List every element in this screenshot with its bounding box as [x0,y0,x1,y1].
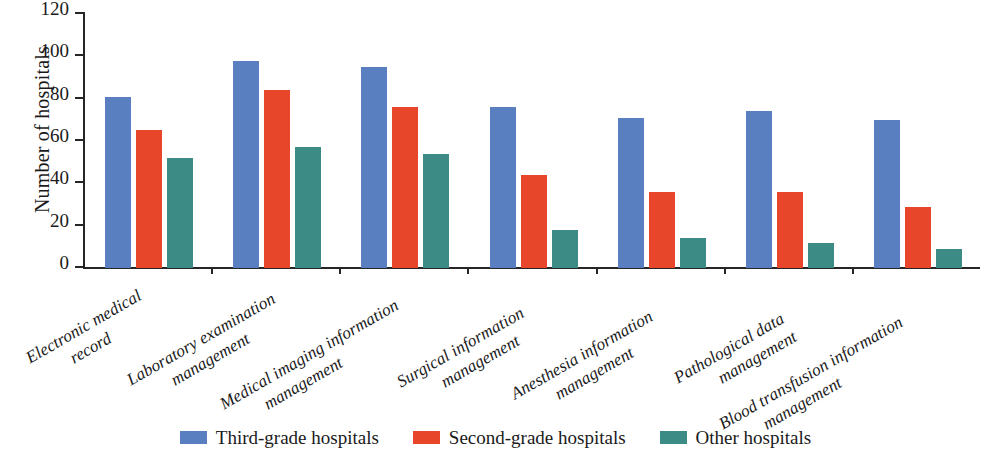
y-axis-tick-label: 60 [23,126,69,145]
y-axis-tick: 120 [75,12,85,14]
x-axis-category-labels: Electronic medicalrecordLaboratory exami… [0,268,991,418]
x-axis-tick [339,267,341,274]
x-axis-tick [596,267,598,274]
bar [521,175,547,268]
x-axis-tick [211,267,213,274]
legend-swatch [413,431,440,444]
bar [392,107,418,268]
legend-swatch [660,431,687,444]
bar-group [490,14,578,268]
x-axis-tick [724,267,726,274]
bar [136,130,162,268]
bar [936,249,962,268]
bar [423,154,449,268]
legend-label: Other hospitals [696,428,812,447]
legend-item[interactable]: Other hospitals [660,428,812,447]
bar-group [618,14,706,268]
bar [777,192,803,268]
bar [905,207,931,268]
bar [361,67,387,268]
legend-item[interactable]: Third-grade hospitals [180,428,379,447]
bar [618,118,644,268]
y-axis-tick: 100 [75,54,85,56]
bar [105,97,131,268]
legend-swatch [180,431,207,444]
x-axis-category-label: Anesthesia informationmanagement [507,306,668,424]
bar [874,120,900,268]
bar [680,238,706,268]
y-axis-tick: 20 [75,224,85,226]
bar-group [874,14,962,268]
y-axis-tick-label: 20 [23,211,69,230]
y-axis-tick-label: 40 [23,168,69,187]
legend-label: Third-grade hospitals [216,428,379,447]
bar-group [233,14,321,268]
y-axis-tick: 40 [75,181,85,183]
bar [552,230,578,268]
x-axis-tick [852,267,854,274]
bar [233,61,259,268]
bar [649,192,675,268]
legend-item[interactable]: Second-grade hospitals [413,428,626,447]
y-axis-tick: 60 [75,139,85,141]
bar-group [361,14,449,268]
y-axis-tick-label: 80 [23,84,69,103]
plot-area: 020406080100120 [83,14,980,268]
bar [167,158,193,268]
bar [264,90,290,268]
chart-legend: Third-grade hospitalsSecond-grade hospit… [0,428,991,447]
legend-label: Second-grade hospitals [449,428,626,447]
y-axis-tick-label: 100 [23,41,69,60]
bar-group [105,14,193,268]
bar [295,147,321,268]
bar [746,111,772,268]
y-axis-tick: 80 [75,97,85,99]
x-axis-tick [467,267,469,274]
bar [808,243,834,268]
bar-group [746,14,834,268]
bar [490,107,516,268]
y-axis-tick-label: 120 [23,0,69,18]
bar-chart: Number of hospitals 020406080100120 Elec… [0,0,991,463]
